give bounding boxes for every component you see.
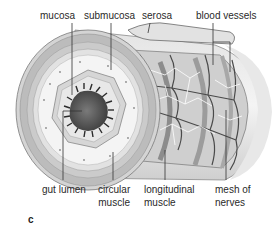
label-mesh-of-nerves-line1: mesh of xyxy=(215,184,251,195)
label-mesh-of-nerves-line2: nerves xyxy=(215,197,251,208)
label-mesh-of-nerves: mesh of nerves xyxy=(215,184,251,208)
label-mucosa: mucosa xyxy=(40,10,75,21)
label-circular-muscle: circular muscle xyxy=(98,184,130,208)
label-gut-lumen: gut lumen xyxy=(42,184,86,195)
label-longitudinal-muscle-line2: muscle xyxy=(144,197,195,208)
label-circular-muscle-line1: circular xyxy=(98,184,130,195)
label-submucosa: submucosa xyxy=(84,10,135,21)
label-longitudinal-muscle: longitudinal muscle xyxy=(144,184,195,208)
label-longitudinal-muscle-line1: longitudinal xyxy=(144,184,195,195)
panel-letter: c xyxy=(28,214,34,225)
cross-section xyxy=(16,30,160,190)
label-blood-vessels: blood vessels xyxy=(196,10,257,21)
label-circular-muscle-line2: muscle xyxy=(98,197,130,208)
label-gut-lumen-line1: gut lumen xyxy=(42,184,86,195)
label-serosa: serosa xyxy=(142,10,172,21)
